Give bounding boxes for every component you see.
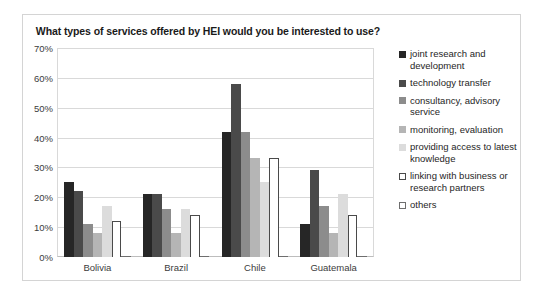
bar-group: Bolivia [58, 48, 137, 257]
legend-label: monitoring, evaluation [410, 124, 503, 136]
legend-item[interactable]: technology transfer [399, 77, 519, 89]
bar[interactable] [171, 233, 181, 257]
legend-label: linking with business or research partne… [410, 170, 519, 193]
y-axis-tick-label: 50% [34, 102, 53, 113]
chart-legend: joint research and developmenttechnology… [399, 48, 519, 217]
bar[interactable] [319, 206, 329, 257]
x-axis-category-label: Brazil [137, 262, 216, 273]
y-axis-tick-label: 10% [34, 222, 53, 233]
plot-wrapper: 0%10%20%30%40%50%60%70% BoliviaBrazilChi… [57, 48, 374, 257]
bar[interactable] [181, 209, 191, 257]
bar[interactable] [143, 194, 153, 257]
legend-swatch-icon [399, 202, 406, 209]
legend-item[interactable]: linking with business or research partne… [399, 170, 519, 193]
legend-swatch-icon [399, 126, 406, 133]
y-axis-tick-label: 40% [34, 132, 53, 143]
legend-swatch-icon [399, 51, 406, 58]
y-axis-tick-label: 20% [34, 192, 53, 203]
bar[interactable] [357, 256, 367, 257]
x-axis-category-label: Guatemala [294, 262, 373, 273]
bar-group: Brazil [137, 48, 216, 257]
legend-label: consultancy, advisory service [410, 95, 519, 118]
bar-group: Chile [216, 48, 295, 257]
bar[interactable] [260, 182, 270, 257]
legend-label: technology transfer [410, 77, 491, 89]
bar[interactable] [279, 256, 289, 257]
y-axis-tick-label: 30% [34, 162, 53, 173]
bar[interactable] [231, 84, 241, 257]
bars [137, 48, 216, 257]
legend-item[interactable]: others [399, 199, 519, 211]
legend-swatch-icon [399, 144, 406, 151]
bars [294, 48, 373, 257]
bar[interactable] [102, 206, 112, 257]
bar[interactable] [241, 132, 251, 257]
legend-item[interactable]: joint research and development [399, 48, 519, 71]
bar[interactable] [348, 215, 358, 257]
bar[interactable] [152, 194, 162, 257]
x-axis-category-label: Chile [216, 262, 295, 273]
bar[interactable] [310, 170, 320, 257]
legend-label: joint research and development [410, 48, 519, 71]
bar[interactable] [121, 256, 131, 257]
bar[interactable] [222, 132, 232, 257]
y-axis-tick-label: 0% [39, 252, 53, 263]
bar[interactable] [83, 224, 93, 257]
legend-item[interactable]: monitoring, evaluation [399, 124, 519, 136]
legend-swatch-icon [399, 97, 406, 104]
x-axis-category-label: Bolivia [58, 262, 137, 273]
bar[interactable] [74, 191, 84, 257]
bar[interactable] [93, 233, 103, 257]
bar[interactable] [338, 194, 348, 257]
y-axis-tick-label: 60% [34, 72, 53, 83]
bar[interactable] [190, 215, 200, 257]
bars [58, 48, 137, 257]
legend-label: providing access to latest knowledge [410, 141, 519, 164]
bars [216, 48, 295, 257]
bar[interactable] [162, 209, 172, 257]
bar-groups: BoliviaBrazilChileGuatemala [58, 48, 373, 257]
bar[interactable] [64, 182, 74, 257]
legend-item[interactable]: providing access to latest knowledge [399, 141, 519, 164]
bar[interactable] [329, 233, 339, 257]
bar[interactable] [269, 158, 279, 257]
chart-title: What types of services offered by HEI wo… [23, 25, 393, 37]
bar[interactable] [200, 256, 210, 257]
chart-container: What types of services offered by HEI wo… [22, 14, 521, 281]
legend-label: others [410, 199, 436, 211]
legend-item[interactable]: consultancy, advisory service [399, 95, 519, 118]
bar[interactable] [112, 221, 122, 257]
legend-swatch-icon [399, 173, 406, 180]
bar[interactable] [250, 158, 260, 257]
y-axis-tick-label: 70% [34, 43, 53, 54]
legend-swatch-icon [399, 80, 406, 87]
bar[interactable] [300, 224, 310, 257]
bar-group: Guatemala [294, 48, 373, 257]
